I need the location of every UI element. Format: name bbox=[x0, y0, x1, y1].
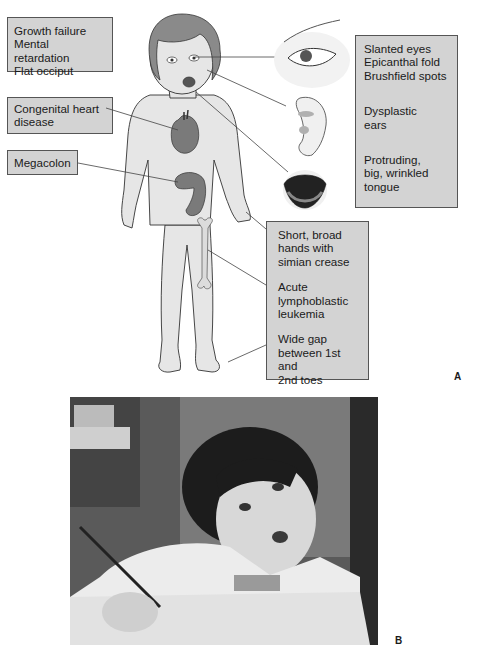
panel-letter-b: B bbox=[395, 635, 402, 646]
heart-icon bbox=[171, 116, 198, 154]
child-illustration bbox=[0, 0, 477, 400]
photo-image bbox=[70, 397, 378, 645]
tongue-closeup-icon bbox=[283, 170, 327, 210]
panel-letter-a: A bbox=[454, 371, 461, 382]
eye-closeup-icon bbox=[274, 20, 350, 88]
ear-closeup-icon bbox=[296, 97, 326, 155]
child-photo bbox=[70, 397, 378, 645]
child-figure-icon bbox=[122, 22, 251, 372]
